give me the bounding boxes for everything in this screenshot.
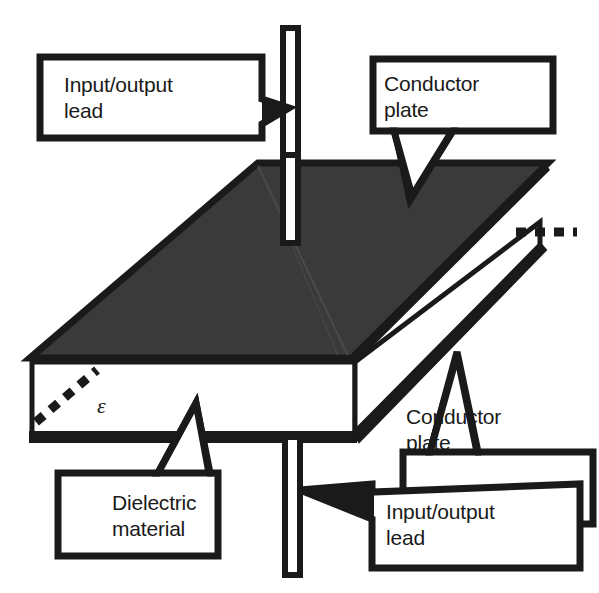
lead-top-bar-over-plate	[283, 155, 298, 243]
callout-label-lead-top: Input/output lead	[64, 72, 264, 124]
capacitor-diagram: Input/output lead Conductor plate Dielec…	[0, 0, 599, 593]
input-output-lead-top-front	[283, 155, 298, 243]
callout-label-lead-bottom: Input/output lead	[386, 499, 586, 551]
callout-label-plate-bottom: Conductor plate	[406, 404, 576, 456]
plate-top-front-lip	[32, 355, 352, 363]
permittivity-symbol-label: ε	[97, 393, 106, 419]
callout-label-plate-top: Conductor plate	[384, 71, 554, 123]
callout-label-dielectric: Dielectric material	[112, 490, 312, 542]
